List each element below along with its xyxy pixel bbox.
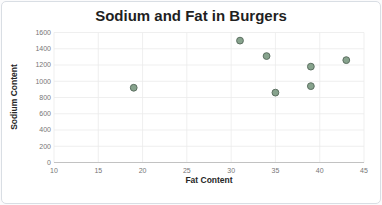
y-tick-label: 600 <box>39 110 51 117</box>
y-tick-label: 1000 <box>35 78 51 85</box>
data-point <box>343 57 350 64</box>
y-tick-label: 1200 <box>35 61 51 68</box>
y-tick-label: 800 <box>39 94 51 101</box>
y-tick-label: 0 <box>47 159 51 166</box>
y-tick-label: 1600 <box>35 29 51 36</box>
x-tick-label: 35 <box>272 167 280 174</box>
x-tick-label: 40 <box>316 167 324 174</box>
x-tick-label: 30 <box>227 167 235 174</box>
data-point <box>307 63 314 70</box>
x-tick-label: 10 <box>50 167 58 174</box>
data-point <box>272 89 279 96</box>
x-tick-label: 20 <box>139 167 147 174</box>
y-tick-label: 200 <box>39 143 51 150</box>
data-point <box>263 53 270 60</box>
chart-title: Sodium and Fat in Burgers <box>0 7 382 24</box>
x-tick-label: 25 <box>183 167 191 174</box>
x-axis-title: Fat Content <box>185 175 232 185</box>
data-point <box>237 37 244 44</box>
y-axis-title: Sodium Content <box>9 64 19 130</box>
x-tick-label: 45 <box>360 167 368 174</box>
y-tick-label: 1400 <box>35 45 51 52</box>
y-tick-label: 400 <box>39 126 51 133</box>
data-point <box>130 84 137 91</box>
data-point <box>307 83 314 90</box>
x-tick-label: 15 <box>94 167 102 174</box>
